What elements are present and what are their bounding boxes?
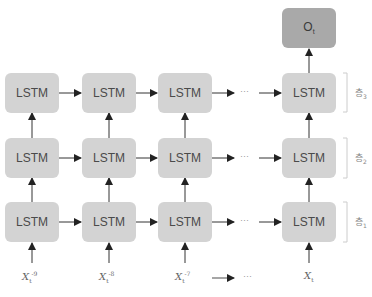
ellipsis-l2: ··· <box>240 151 249 161</box>
lstm-cell-l1-t8: LSTM <box>82 202 136 242</box>
layer-label-2: 층2 <box>355 151 367 165</box>
lstm-cell-l3-t9: LSTM <box>5 73 59 113</box>
input-label-t8: Xt-8 <box>99 270 114 284</box>
lstm-cell-l1-t: LSTM <box>282 202 336 242</box>
lstm-cell-l3-t7: LSTM <box>158 73 212 113</box>
lstm-cell-l3-t: LSTM <box>282 73 336 113</box>
lstm-cell-l1-t7: LSTM <box>158 202 212 242</box>
input-label-t: Xt <box>304 270 314 283</box>
layer-label-1: 층1 <box>355 215 367 229</box>
lstm-cell-l3-t8: LSTM <box>82 73 136 113</box>
ellipsis-l1: ··· <box>240 215 249 225</box>
lstm-cell-l2-t8: LSTM <box>82 138 136 178</box>
output-label: Ot <box>303 20 314 35</box>
input-label-t7: Xt-7 <box>175 270 190 284</box>
lstm-cell-l1-t9: LSTM <box>5 202 59 242</box>
lstm-cell-l2-t: LSTM <box>282 138 336 178</box>
ellipsis-inputs: ··· <box>243 271 252 281</box>
stacked-lstm-diagram: Ot LSTM LSTM LSTM LSTM LSTM LSTM LSTM LS… <box>0 0 372 297</box>
layer-label-3: 층3 <box>355 86 367 100</box>
output-node: Ot <box>282 8 336 48</box>
lstm-cell-l2-t9: LSTM <box>5 138 59 178</box>
input-label-t9: Xt-9 <box>22 270 37 284</box>
lstm-cell-l2-t7: LSTM <box>158 138 212 178</box>
ellipsis-l3: ··· <box>240 86 249 96</box>
